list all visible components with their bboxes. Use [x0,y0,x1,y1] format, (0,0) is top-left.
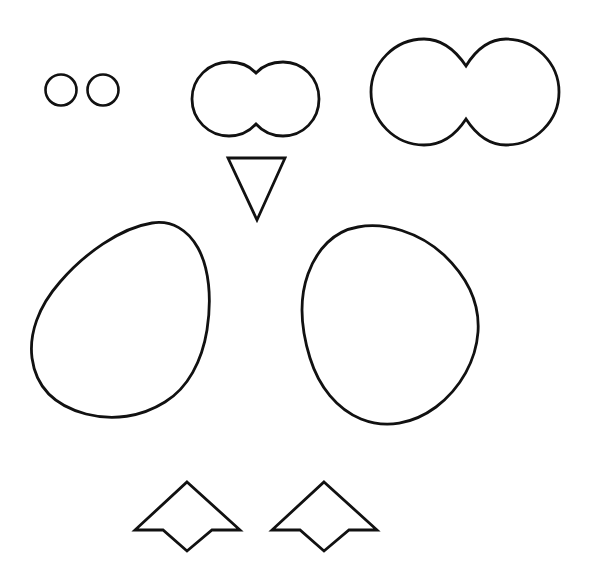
medium-peanut [192,62,319,136]
shapes-svg [0,0,592,586]
figure-canvas [0,0,592,586]
small-circle-right [88,75,119,106]
small-circle-left [46,75,77,106]
